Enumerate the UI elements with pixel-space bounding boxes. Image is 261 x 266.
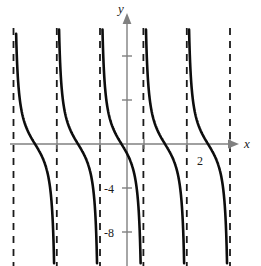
plot-canvas	[0, 0, 261, 266]
y-axis-label: y	[118, 2, 124, 15]
curve-group	[16, 30, 227, 264]
x-tick-label-2: 2	[197, 155, 203, 167]
x-axis-label: x	[244, 137, 250, 150]
branch-2	[59, 30, 97, 264]
branch-5	[189, 30, 227, 264]
asymptote-group	[14, 28, 231, 266]
y-tick-label-minus8: -8	[104, 227, 114, 239]
y-tick-label-minus4: -4	[104, 183, 114, 195]
branch-1	[16, 34, 54, 263]
branch-4	[146, 30, 184, 264]
function-plot-figure: y x 2 -4 -8	[0, 0, 261, 266]
